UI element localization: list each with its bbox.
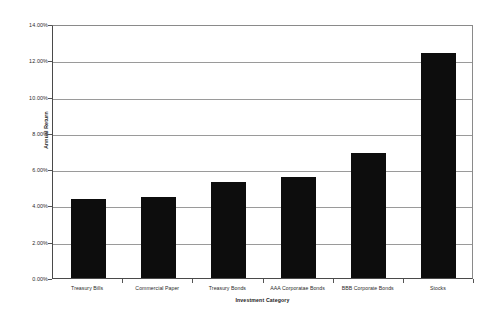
x-axis-title: Investment Category	[52, 297, 473, 303]
bar-slot	[123, 26, 193, 278]
bar[interactable]	[71, 199, 106, 278]
x-axis-category-label: Treasury Bills	[52, 285, 122, 291]
x-axis-category-label: Commercial Paper	[122, 285, 192, 291]
y-axis-tick-label: 4.00%	[20, 203, 48, 209]
x-axis-category-label: Treasury Bonds	[192, 285, 262, 291]
y-axis-tick-label: 8.00%	[20, 131, 48, 137]
bar[interactable]	[141, 197, 176, 278]
x-axis-category-label: AAA Corporatae Bonds	[263, 285, 333, 291]
x-axis-tick-mark	[122, 279, 123, 283]
bar[interactable]	[421, 53, 456, 278]
x-axis-tick-mark	[192, 279, 193, 283]
x-axis-tick-mark	[403, 279, 404, 283]
y-axis-tick-label: 10.00%	[20, 95, 48, 101]
bar-slot	[334, 26, 404, 278]
x-axis-tick-mark	[333, 279, 334, 283]
bar-chart: Annual Return 0.00%2.00%4.00%6.00%8.00%1…	[0, 0, 492, 319]
bar-slot	[193, 26, 263, 278]
y-axis-tick-labels: 0.00%2.00%4.00%6.00%8.00%10.00%12.00%14.…	[20, 0, 48, 319]
bar[interactable]	[211, 182, 246, 278]
x-axis-category-labels: Treasury BillsCommercial PaperTreasury B…	[52, 285, 473, 297]
y-axis-tick-label: 2.00%	[20, 240, 48, 246]
x-axis-tick-mark	[263, 279, 264, 283]
y-axis-tick-label: 6.00%	[20, 167, 48, 173]
bars-layer	[53, 26, 472, 278]
y-axis-tick-label: 0.00%	[20, 276, 48, 282]
x-axis-tick-mark	[473, 279, 474, 283]
bar-slot	[404, 26, 474, 278]
y-axis-tick-label: 12.00%	[20, 58, 48, 64]
bar-slot	[264, 26, 334, 278]
y-axis-tick-mark	[48, 279, 52, 280]
bar-slot	[53, 26, 123, 278]
x-axis-category-label: Stocks	[403, 285, 473, 291]
bar[interactable]	[351, 153, 386, 278]
plot-area	[52, 25, 473, 279]
x-axis-category-label: BBB Corporate Bonds	[333, 285, 403, 291]
bar[interactable]	[281, 177, 316, 278]
y-axis-tick-label: 14.00%	[20, 22, 48, 28]
